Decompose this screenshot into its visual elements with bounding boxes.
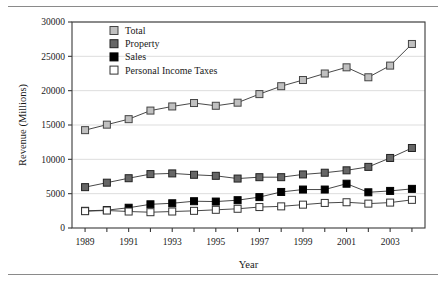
data-point-marker [169,208,176,215]
data-point-marker [191,171,198,178]
data-point-marker [299,77,306,84]
revenue-line-chart: 0500010000150002000025000300001989199119… [0,0,446,283]
data-point-marker [278,83,285,90]
legend-marker-property[interactable] [110,40,118,48]
data-point-marker [212,206,219,213]
data-point-marker [343,180,350,187]
data-point-marker [256,194,263,201]
data-point-marker [234,99,241,106]
data-point-marker [343,167,350,174]
y-axis-tick-label: 30000 [41,17,65,27]
x-axis-tick-label: 1989 [76,237,95,247]
y-axis-tick-label: 5000 [46,189,65,199]
data-point-marker [125,175,132,182]
data-point-marker [191,100,198,107]
data-point-marker [212,172,219,179]
x-axis-tick-label: 1995 [206,237,225,247]
data-point-marker [234,175,241,182]
data-point-marker [125,116,132,123]
data-point-marker [169,103,176,110]
data-point-marker [147,201,154,208]
data-point-marker [387,154,394,161]
data-point-marker [278,174,285,181]
data-point-marker [103,179,110,186]
chart-plot-area: 0500010000150002000025000300001989199119… [0,0,446,283]
data-point-marker [365,200,372,207]
data-point-marker [256,204,263,211]
data-point-marker [169,200,176,207]
data-point-marker [212,102,219,109]
y-axis-tick-label: 0 [60,223,65,233]
y-axis-tick-label: 15000 [41,120,65,130]
data-point-marker [82,127,89,134]
data-point-marker [256,91,263,98]
x-axis-tick-label: 2003 [381,237,400,247]
series-line [85,200,412,212]
x-axis-tick-label: 1997 [250,237,269,247]
data-point-marker [408,40,415,47]
x-axis-tick-label: 2001 [337,237,356,247]
data-point-marker [365,74,372,81]
data-point-marker [299,171,306,178]
x-axis-title: Year [239,259,259,270]
data-point-marker [191,198,198,205]
figure-container: 0500010000150002000025000300001989199119… [0,0,446,283]
legend-marker-sales[interactable] [110,53,118,61]
data-point-marker [408,185,415,192]
data-point-marker [321,199,328,206]
data-point-marker [387,187,394,194]
legend-label-personal-income-taxes[interactable]: Personal Income Taxes [125,65,218,76]
data-point-marker [387,199,394,206]
data-point-marker [387,62,394,69]
data-point-marker [321,169,328,176]
data-point-marker [343,64,350,71]
data-point-marker [278,203,285,210]
data-point-marker [234,197,241,204]
data-point-marker [321,70,328,77]
data-point-marker [278,188,285,195]
series-line [85,184,412,211]
data-point-marker [147,209,154,216]
data-point-marker [256,174,263,181]
data-point-marker [299,201,306,208]
data-point-marker [103,207,110,214]
data-point-marker [408,196,415,203]
data-point-marker [299,186,306,193]
legend-label-property[interactable]: Property [125,38,159,49]
data-point-marker [234,205,241,212]
data-point-marker [365,163,372,170]
y-axis-tick-label: 10000 [41,155,65,165]
data-point-marker [125,208,132,215]
data-point-marker [82,208,89,215]
legend-label-sales[interactable]: Sales [125,51,146,62]
data-point-marker [365,189,372,196]
y-axis-title: Revenue (Millions) [17,84,29,166]
data-point-marker [147,171,154,178]
data-point-marker [212,198,219,205]
x-axis-tick-label: 1999 [293,237,312,247]
data-point-marker [169,170,176,177]
series-line [85,148,412,187]
data-point-marker [191,207,198,214]
y-axis-tick-label: 25000 [41,52,65,62]
data-point-marker [408,145,415,152]
series-property [82,145,416,191]
legend-marker-total[interactable] [110,27,118,35]
data-point-marker [82,184,89,191]
data-point-marker [147,107,154,114]
data-point-marker [343,199,350,206]
y-axis-tick-label: 20000 [41,86,65,96]
legend-marker-personal-income-taxes[interactable] [110,66,118,74]
legend-label-total[interactable]: Total [125,25,146,36]
x-axis-tick-label: 1991 [119,237,138,247]
data-point-marker [103,121,110,128]
data-point-marker [321,186,328,193]
x-axis-tick-label: 1993 [163,237,182,247]
